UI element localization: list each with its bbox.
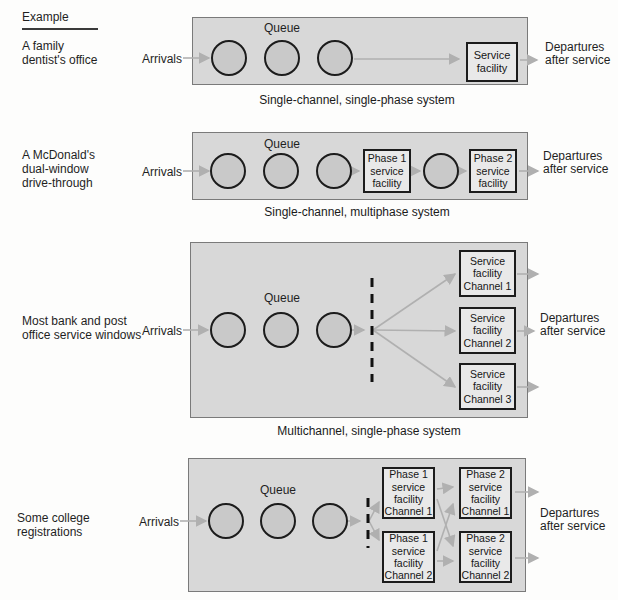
departures-line: after service <box>543 163 608 176</box>
example-line: dentist's office <box>22 53 97 67</box>
phase1-channel2-facility-box: Phase 1 service facility Channel 2 <box>382 531 435 583</box>
departures-line: after service <box>540 520 605 533</box>
queue-label-3: Queue <box>264 291 300 305</box>
arrivals-label-1: Arrivals <box>142 52 182 66</box>
facility-line: service <box>469 545 502 557</box>
phase2-channel2-facility-box: Phase 2 service facility Channel 2 <box>459 531 512 583</box>
facility-line: Channel 1 <box>464 280 512 292</box>
example-line: dual-window <box>22 162 95 176</box>
example-line: Some college <box>17 511 90 525</box>
facility-line: facility <box>394 557 423 569</box>
facility-line: facility <box>471 557 500 569</box>
facility-line: service <box>392 481 425 493</box>
queue-customer-circle <box>316 153 352 189</box>
service-facility-box: Service facility <box>466 42 518 82</box>
arrivals-label-2: Arrivals <box>142 165 182 179</box>
facility-line: Phase 2 <box>474 152 513 164</box>
facility-line: Service <box>470 255 505 267</box>
queue-label-2: Queue <box>264 137 300 151</box>
queue-label-4: Queue <box>260 483 296 497</box>
facility-line: facility <box>473 380 502 392</box>
queuing-systems-figure: Example A family dentist's office A McDo… <box>0 0 618 600</box>
facility-line: Phase 2 <box>466 532 505 544</box>
departures-label-2: Departures after service <box>543 150 608 176</box>
departures-label-1: Departures after service <box>545 41 610 67</box>
between-phase-customer-circle <box>423 153 459 189</box>
phase2-channel1-facility-box: Phase 2 service facility Channel 1 <box>459 467 512 519</box>
service-facility-channel1-box: Service facility Channel 1 <box>459 250 516 297</box>
facility-line: service <box>392 545 425 557</box>
departures-line: after service <box>545 54 610 67</box>
facility-line: Phase 2 <box>466 468 505 480</box>
queue-customer-circle <box>211 40 247 76</box>
facility-line: Channel 1 <box>462 505 510 517</box>
caption-single-channel-multiphase: Single-channel, multiphase system <box>264 205 449 219</box>
facility-line: facility <box>394 493 423 505</box>
phase1-service-facility-box: Phase 1 service facility <box>363 149 411 193</box>
departures-line: after service <box>540 325 605 338</box>
queue-customer-circle <box>317 40 353 76</box>
facility-line: Service <box>470 368 505 380</box>
facility-line: facility <box>478 177 507 189</box>
facility-line: Channel 2 <box>464 337 512 349</box>
facility-line: facility <box>372 177 401 189</box>
queue-customer-circle <box>316 312 352 348</box>
arrivals-label-3: Arrivals <box>142 324 182 338</box>
queue-customer-circle <box>210 312 246 348</box>
queue-customer-circle <box>260 503 296 539</box>
phase2-service-facility-box: Phase 2 service facility <box>469 149 517 193</box>
facility-line: facility <box>477 62 508 75</box>
facility-line: service <box>469 481 502 493</box>
example-line: Most bank and post <box>22 314 141 328</box>
example-label-dentist: A family dentist's office <box>22 39 97 67</box>
queue-customer-circle <box>263 312 299 348</box>
facility-line: Service <box>470 312 505 324</box>
caption-multichannel-single-phase: Multichannel, single-phase system <box>277 424 460 438</box>
departures-label-3: Departures after service <box>540 312 605 338</box>
example-line: A family <box>22 39 97 53</box>
example-column-header: Example <box>22 10 98 30</box>
example-label-bank-post: Most bank and post office service window… <box>22 314 141 342</box>
queue-customer-circle <box>210 153 246 189</box>
arrivals-label-4: Arrivals <box>139 515 179 529</box>
example-line: office service windows <box>22 328 141 342</box>
facility-line: Channel 1 <box>385 505 433 517</box>
facility-line: Phase 1 <box>368 152 407 164</box>
queue-customer-circle <box>312 503 348 539</box>
facility-line: service <box>476 165 509 177</box>
example-line: drive-through <box>22 176 95 190</box>
caption-single-channel-single-phase: Single-channel, single-phase system <box>259 93 454 107</box>
facility-line: service <box>370 165 403 177</box>
queue-customer-circle <box>264 40 300 76</box>
facility-line: Service <box>474 49 511 62</box>
facility-line: facility <box>473 267 502 279</box>
facility-line: facility <box>471 493 500 505</box>
service-facility-channel3-box: Service facility Channel 3 <box>459 363 516 410</box>
example-line: registrations <box>17 525 90 539</box>
departures-label-4: Departures after service <box>540 507 605 533</box>
example-label-mcdonalds: A McDonald's dual-window drive-through <box>22 148 95 190</box>
example-line: A McDonald's <box>22 148 95 162</box>
facility-line: Phase 1 <box>389 468 428 480</box>
service-facility-channel2-box: Service facility Channel 2 <box>459 307 516 354</box>
facility-line: Channel 3 <box>464 393 512 405</box>
facility-line: Phase 1 <box>389 532 428 544</box>
queue-label-1: Queue <box>264 21 300 35</box>
facility-line: facility <box>473 324 502 336</box>
facility-line: Channel 2 <box>385 569 433 581</box>
queue-customer-circle <box>263 153 299 189</box>
example-label-college: Some college registrations <box>17 511 90 539</box>
queue-customer-circle <box>208 503 244 539</box>
facility-line: Channel 2 <box>462 569 510 581</box>
phase1-channel1-facility-box: Phase 1 service facility Channel 1 <box>382 467 435 519</box>
